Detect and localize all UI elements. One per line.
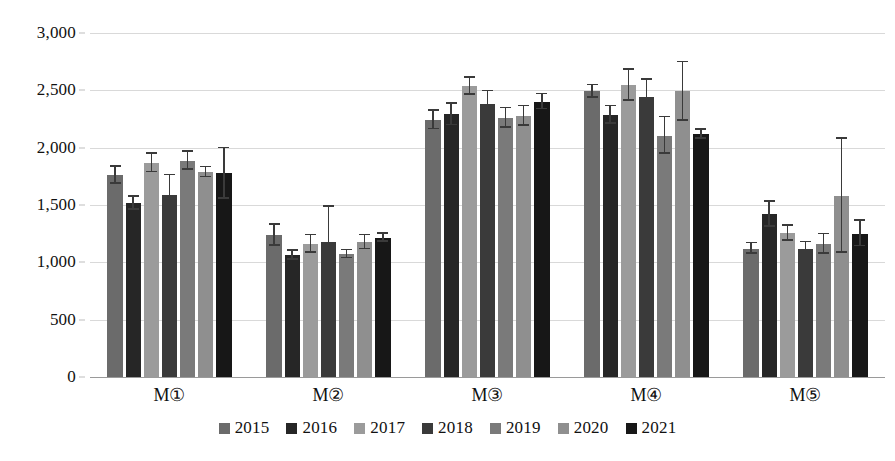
- bar-2015-M③[interactable]: [425, 33, 441, 377]
- error-bar-cap-upper: [128, 195, 139, 197]
- bar-2015-M④[interactable]: [584, 33, 600, 377]
- bar-2018-M③[interactable]: [480, 33, 496, 377]
- error-bar-line: [682, 62, 684, 120]
- y-tick-mark: [79, 319, 85, 320]
- bar-rect: [180, 161, 196, 377]
- bar-chart: 05001,0001,5002,0002,5003,000 M①M②M③M④M⑤…: [0, 0, 895, 461]
- legend-label: 2019: [506, 418, 541, 438]
- legend-item-2020[interactable]: 2020: [558, 418, 609, 438]
- error-bar-cap-lower: [146, 171, 157, 173]
- bar-rect: [675, 91, 691, 377]
- bar-2021-M③[interactable]: [534, 33, 550, 377]
- error-bar-cap-lower: [518, 124, 529, 126]
- error-bar-line: [273, 225, 275, 246]
- bar-2015-M①[interactable]: [107, 33, 123, 377]
- y-tick-label: 0: [67, 367, 76, 387]
- legend-label: 2016: [302, 418, 337, 438]
- error-bar-line: [328, 207, 330, 277]
- y-tick-label: 500: [50, 310, 76, 330]
- error-bar-cap-lower: [500, 126, 511, 128]
- bar-2018-M④[interactable]: [639, 33, 655, 377]
- error-bar-cap-lower: [587, 96, 598, 98]
- error-bar-cap-upper: [200, 166, 211, 168]
- bar-rect: [780, 233, 796, 377]
- bar-2021-M⑤[interactable]: [852, 33, 868, 377]
- bar-group: [743, 33, 867, 377]
- error-bar-cap-upper: [446, 102, 457, 104]
- error-bar-cap-lower: [128, 208, 139, 210]
- legend-item-2019[interactable]: 2019: [490, 418, 541, 438]
- error-bar-cap-lower: [695, 137, 706, 139]
- bar-2021-M②[interactable]: [375, 33, 391, 377]
- bar-2018-M②[interactable]: [321, 33, 337, 377]
- bar-2020-M①[interactable]: [198, 33, 214, 377]
- error-bar-line: [487, 91, 489, 115]
- bar-2021-M①[interactable]: [216, 33, 232, 377]
- legend-item-2018[interactable]: 2018: [422, 418, 473, 438]
- bar-2017-M④[interactable]: [621, 33, 637, 377]
- error-bar-cap-lower: [200, 176, 211, 178]
- y-tick-mark: [79, 205, 85, 206]
- bar-2020-M③[interactable]: [516, 33, 532, 377]
- error-bar-line: [523, 106, 525, 125]
- error-bar-cap-upper: [605, 105, 616, 107]
- bar-2017-M①[interactable]: [144, 33, 160, 377]
- bar-2017-M②[interactable]: [303, 33, 319, 377]
- error-bar-cap-lower: [341, 257, 352, 259]
- error-bar-cap-lower: [800, 254, 811, 256]
- legend-item-2016[interactable]: 2016: [286, 418, 337, 438]
- bar-rect: [798, 249, 814, 377]
- bar-2021-M④[interactable]: [693, 33, 709, 377]
- bar-rect: [498, 118, 514, 377]
- bar-2016-M②[interactable]: [285, 33, 301, 377]
- error-bar-cap-upper: [641, 78, 652, 80]
- bar-group: [584, 33, 708, 377]
- legend-item-2015[interactable]: 2015: [219, 418, 270, 438]
- legend-label: 2018: [438, 418, 473, 438]
- bar-2016-M⑤[interactable]: [762, 33, 778, 377]
- bar-2020-M④[interactable]: [675, 33, 691, 377]
- bar-rect: [107, 175, 123, 377]
- bar-rect: [357, 242, 373, 377]
- bar-2019-M①[interactable]: [180, 33, 196, 377]
- bar-2020-M②[interactable]: [357, 33, 373, 377]
- bar-2016-M④[interactable]: [603, 33, 619, 377]
- bar-2015-M②[interactable]: [266, 33, 282, 377]
- bar-2017-M③[interactable]: [462, 33, 478, 377]
- x-tick-label: M②: [312, 384, 344, 406]
- bar-2019-M②[interactable]: [339, 33, 355, 377]
- x-tick-label: M①: [153, 384, 185, 406]
- error-bar-cap-upper: [464, 76, 475, 78]
- bar-2019-M⑤[interactable]: [816, 33, 832, 377]
- bar-2018-M⑤[interactable]: [798, 33, 814, 377]
- bar-2016-M①[interactable]: [126, 33, 142, 377]
- error-bar-cap-lower: [482, 114, 493, 116]
- error-bar-cap-upper: [818, 233, 829, 235]
- bar-2019-M④[interactable]: [657, 33, 673, 377]
- error-bar-cap-upper: [110, 165, 121, 167]
- error-bar-line: [768, 202, 770, 227]
- y-tick-mark: [79, 262, 85, 263]
- bar-2019-M③[interactable]: [498, 33, 514, 377]
- bar-2015-M⑤[interactable]: [743, 33, 759, 377]
- error-bar-line: [841, 139, 843, 253]
- bar-rect: [266, 235, 282, 377]
- legend-item-2021[interactable]: 2021: [626, 418, 677, 438]
- error-bar-cap-upper: [482, 90, 493, 92]
- bar-2018-M①[interactable]: [162, 33, 178, 377]
- y-tick-label: 2,500: [37, 80, 76, 100]
- bar-rect: [444, 114, 460, 377]
- legend-swatch-icon: [490, 423, 501, 434]
- bar-2016-M③[interactable]: [444, 33, 460, 377]
- bar-2020-M⑤[interactable]: [834, 33, 850, 377]
- error-bar-line: [450, 104, 452, 126]
- error-bar-cap-upper: [269, 223, 280, 225]
- bar-2017-M⑤[interactable]: [780, 33, 796, 377]
- legend-item-2017[interactable]: 2017: [354, 418, 405, 438]
- error-bar-cap-lower: [359, 248, 370, 250]
- bar-rect: [198, 172, 214, 377]
- legend-label: 2021: [642, 418, 677, 438]
- error-bar-cap-upper: [746, 242, 757, 244]
- error-bar-cap-lower: [818, 252, 829, 254]
- bar-rect: [339, 254, 355, 377]
